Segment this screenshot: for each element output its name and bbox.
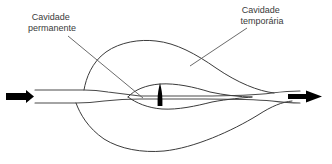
channel-lower-wall (35, 99, 300, 103)
temporary-cavity-lower-outline (76, 101, 292, 152)
entry-arrow-head (6, 90, 34, 103)
entry-arrow (6, 90, 34, 103)
permanent-cavity-label-line2: permanente (28, 23, 76, 33)
channel-upper-wall (35, 90, 300, 96)
exit-arrow (288, 91, 322, 103)
permanent-cavity-label-line1: Cavidade (32, 12, 70, 22)
temporary-cavity-label: Cavidade temporária (240, 5, 283, 26)
projectile (158, 83, 163, 106)
permanent-cavity-channel (35, 90, 300, 103)
permanent-cavity-label: Cavidade permanente (28, 12, 76, 33)
temporary-cavity-label-line1: Cavidade (242, 5, 280, 15)
ballistics-illustration: Cavidade permanente Cavidade temporária (0, 0, 332, 164)
exit-arrow-head (288, 91, 322, 103)
temporary-cavity-leader-line (190, 28, 247, 66)
inner-cavity-upper-outline (128, 84, 252, 97)
permanent-cavity-leader-line (68, 36, 143, 98)
temporary-cavity-label-line2: temporária (240, 16, 283, 26)
ballistic-cavity-diagram: Cavidade permanente Cavidade temporária (0, 0, 332, 164)
